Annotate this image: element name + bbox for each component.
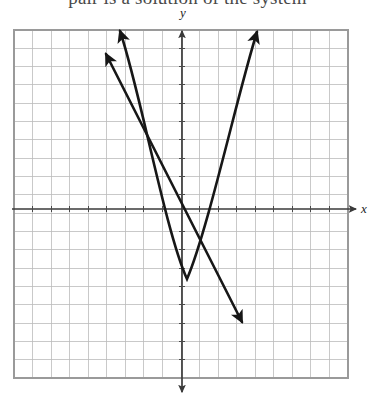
coordinate-plane-graph: x y xyxy=(0,0,375,395)
x-axis-label: x xyxy=(360,201,367,216)
figure-page: pair is a solution of the system xyxy=(0,0,375,395)
graph-figure: x y xyxy=(0,0,375,395)
y-axis-label: y xyxy=(178,5,186,20)
